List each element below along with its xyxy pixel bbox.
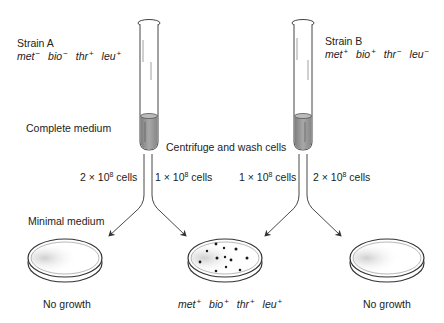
petri-dish-middle (188, 239, 262, 282)
centrifuge-label: Centrifuge and wash cells (166, 141, 286, 153)
strain-b-title: Strain B (325, 35, 362, 47)
transfer-arrows-b (265, 154, 341, 236)
left-plate-result: No growth (43, 298, 91, 310)
complete-medium-label: Complete medium (26, 122, 111, 134)
petri-dish-right (350, 239, 424, 282)
cell-count-a-left: 2 × 108 cells (80, 171, 137, 183)
test-tube-b (292, 20, 314, 151)
petri-dish-left (28, 239, 102, 282)
strain-a-genotype: met− bio− thr+ leu+ (17, 50, 126, 62)
cell-count-b-right: 2 × 108 cells (313, 171, 370, 183)
minimal-medium-label: Minimal medium (28, 215, 104, 227)
middle-plate-result-genotype: met+ bio+ thr+ leu+ (178, 298, 287, 310)
strain-b-genotype: met+ bio+ thr− leu− (325, 48, 434, 60)
transfer-arrows-a (109, 154, 186, 236)
cell-count-b-left: 1 × 108 cells (239, 171, 296, 183)
strain-a-title: Strain A (17, 37, 54, 49)
test-tube-a (138, 20, 160, 151)
cell-count-a-right: 1 × 108 cells (155, 171, 212, 183)
right-plate-result: No growth (363, 298, 411, 310)
